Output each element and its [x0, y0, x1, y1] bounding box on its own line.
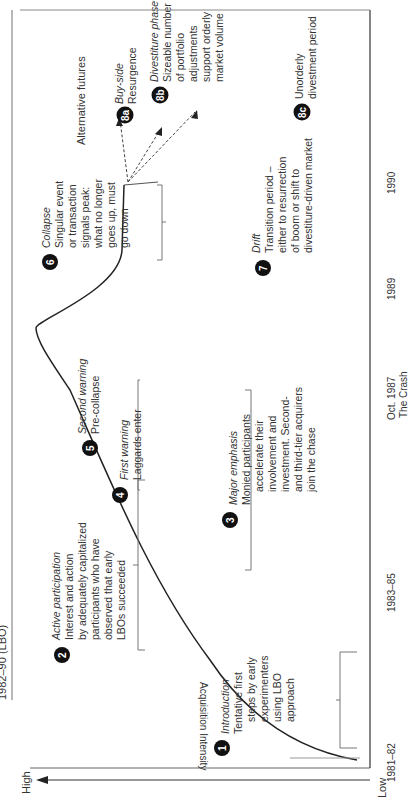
svg-text:signals peak:: signals peak: — [79, 187, 91, 248]
svg-text:accelerate their: accelerate their — [253, 420, 265, 492]
stage-3: 3 Major emphasis Monied participants acc… — [222, 387, 317, 528]
svg-text:Drift: Drift — [250, 233, 262, 253]
svg-text:Tentative first: Tentative first — [232, 672, 244, 734]
svg-text:and third-tier acquirers: and third-tier acquirers — [292, 387, 304, 492]
svg-text:Transition period –: Transition period – — [263, 166, 275, 253]
svg-text:what no longer: what no longer — [92, 179, 104, 249]
svg-text:divestment period: divestment period — [306, 16, 318, 99]
y-high-label: High — [20, 771, 32, 794]
svg-text:1983–85: 1983–85 — [386, 573, 397, 612]
x-ticks: 1981–82 1983–85 Oct. 1987 The Crash 1989… — [386, 171, 409, 782]
svg-text:Oct. 1987: Oct. 1987 — [386, 376, 397, 420]
svg-text:market volume: market volume — [213, 13, 225, 82]
stage-2: 2 Active participation Interest and acti… — [50, 522, 127, 663]
svg-text:Sizeable number: Sizeable number — [161, 3, 173, 82]
stage-7: 7 Drift Transition period – either to re… — [250, 138, 314, 276]
arrow-8b-icon — [155, 127, 162, 136]
stage-8c: 8c Unorderly divestment period — [293, 16, 318, 121]
svg-text:Major emphasis: Major emphasis — [227, 430, 239, 505]
arrow-8c-icon — [191, 110, 198, 119]
svg-text:6: 6 — [45, 259, 56, 265]
svg-text:2: 2 — [57, 652, 68, 658]
svg-text:by adequately capitalized: by adequately capitalized — [76, 522, 88, 640]
svg-text:go down: go down — [118, 208, 130, 248]
drift-line — [124, 182, 158, 185]
svg-text:adjustments: adjustments — [187, 25, 199, 82]
svg-text:steps by early: steps by early — [245, 656, 257, 722]
svg-text:or transaction: or transaction — [66, 184, 78, 248]
svg-text:Divestiture phase: Divestiture phase — [148, 1, 160, 82]
svg-text:1989: 1989 — [386, 277, 397, 300]
svg-text:support orderly: support orderly — [200, 11, 212, 82]
alternative-futures-label: Alternative futures — [75, 56, 87, 145]
svg-text:First warning: First warning — [118, 420, 130, 480]
svg-text:divestiture-driven market: divestiture-driven market — [302, 138, 314, 253]
svg-text:3: 3 — [225, 517, 236, 523]
svg-text:8c: 8c — [297, 106, 308, 118]
svg-text:Buy-side: Buy-side — [113, 63, 125, 104]
svg-text:1: 1 — [217, 745, 228, 751]
svg-text:Second warning: Second warning — [76, 359, 88, 434]
diagram-title: 1982–90 (LBO) — [0, 625, 8, 700]
svg-text:Pre-collapse: Pre-collapse — [89, 375, 101, 434]
y-axis-label: Acquisition Intensity — [198, 682, 209, 770]
svg-text:Collapse: Collapse — [40, 207, 52, 248]
svg-text:Unorderly: Unorderly — [293, 53, 305, 99]
y-axis: High Low Acquisition Intensity — [20, 682, 388, 798]
svg-text:using LBO: using LBO — [271, 673, 283, 722]
stage-8a: 8a Buy-side Resurgence — [113, 47, 138, 123]
svg-text:of boom or shift to: of boom or shift to — [289, 169, 301, 253]
svg-text:involvement and: involvement and — [266, 415, 278, 492]
bracket-stage1 — [336, 652, 357, 748]
svg-text:The Crash: The Crash — [398, 371, 409, 418]
arrow-up-icon — [36, 776, 48, 784]
svg-text:of portfolio: of portfolio — [174, 33, 186, 82]
svg-text:5: 5 — [85, 445, 96, 451]
svg-text:approach: approach — [284, 678, 296, 722]
svg-text:1990: 1990 — [386, 171, 397, 194]
svg-text:8a: 8a — [120, 109, 131, 121]
svg-text:Laggards enter: Laggards enter — [131, 409, 143, 480]
svg-text:Interest and action: Interest and action — [63, 553, 75, 640]
lbo-cycle-diagram: 1982–90 (LBO) High Low Acquisition Inten… — [0, 0, 410, 810]
svg-text:investment. Second-: investment. Second- — [279, 396, 291, 492]
svg-text:Monied participants: Monied participants — [240, 414, 252, 505]
svg-text:8b: 8b — [155, 89, 166, 101]
svg-text:4: 4 — [115, 492, 126, 498]
stage-1: 1 Introduction Tentative first steps by … — [214, 655, 296, 756]
svg-text:experimenters: experimenters — [258, 655, 270, 722]
svg-text:1981–82: 1981–82 — [386, 743, 397, 782]
svg-text:join the chase: join the chase — [305, 427, 317, 493]
svg-text:observed that early: observed that early — [102, 550, 114, 640]
svg-text:Active participation: Active participation — [50, 552, 62, 641]
future-arrows — [120, 112, 195, 182]
bracket-stage2 — [133, 480, 145, 650]
stage-6: 6 Collapse Singular event or transaction… — [40, 179, 130, 270]
svg-text:participants who have: participants who have — [89, 538, 101, 640]
svg-text:either to resurrection: either to resurrection — [276, 157, 288, 253]
stage-8b: 8b Divestiture phase Sizeable number of … — [148, 1, 225, 104]
svg-text:Introduction: Introduction — [219, 679, 231, 734]
svg-text:Singular event: Singular event — [53, 181, 65, 248]
stage-5: 5 Second warning Pre-collapse — [76, 359, 101, 456]
svg-text:7: 7 — [258, 265, 269, 271]
svg-text:Resurgence: Resurgence — [126, 47, 138, 104]
bracket-stage7 — [157, 185, 166, 260]
svg-text:goes up, must: goes up, must — [105, 182, 117, 248]
svg-text:LBOs succeeded: LBOs succeeded — [115, 560, 127, 640]
